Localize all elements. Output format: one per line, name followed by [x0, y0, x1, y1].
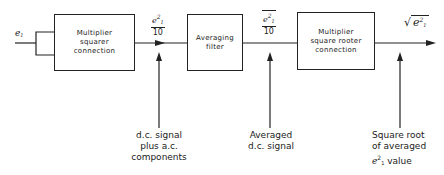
block-label-line: Multiplier [310, 28, 361, 37]
squared-signal-label: e21 10 [151, 12, 165, 38]
output-signal-label: √e21 [404, 16, 429, 29]
block-label-line: squarer [74, 38, 116, 47]
overline: e21 [262, 10, 276, 27]
averaging-filter-block: Averaging filter [187, 14, 243, 71]
sqrt-symbol: √ [404, 16, 411, 29]
annotation-averaged-dc: Averaged d.c. signal [243, 130, 299, 152]
block-label-line: Averaging [196, 34, 234, 43]
input-signal-label: e1 [15, 28, 24, 38]
block-label-line: filter [196, 43, 234, 52]
averaged-signal-label: e21 10 [262, 10, 276, 37]
annotation-sqrt-avg: Square root of averaged e21 value [372, 130, 442, 169]
block-label-line: connection [74, 47, 116, 56]
block-label-line: Multiplier [74, 29, 116, 38]
multiplier-square-rooter-block: Multiplier square rooter connection [297, 12, 375, 70]
block-label-line: connection [310, 46, 361, 55]
block-label-line: square rooter [310, 37, 361, 46]
multiplier-squarer-block: Multiplier squarer connection [54, 14, 135, 71]
annotation-dc-plus-ac: d.c. signal plus a.c. components [112, 130, 206, 163]
